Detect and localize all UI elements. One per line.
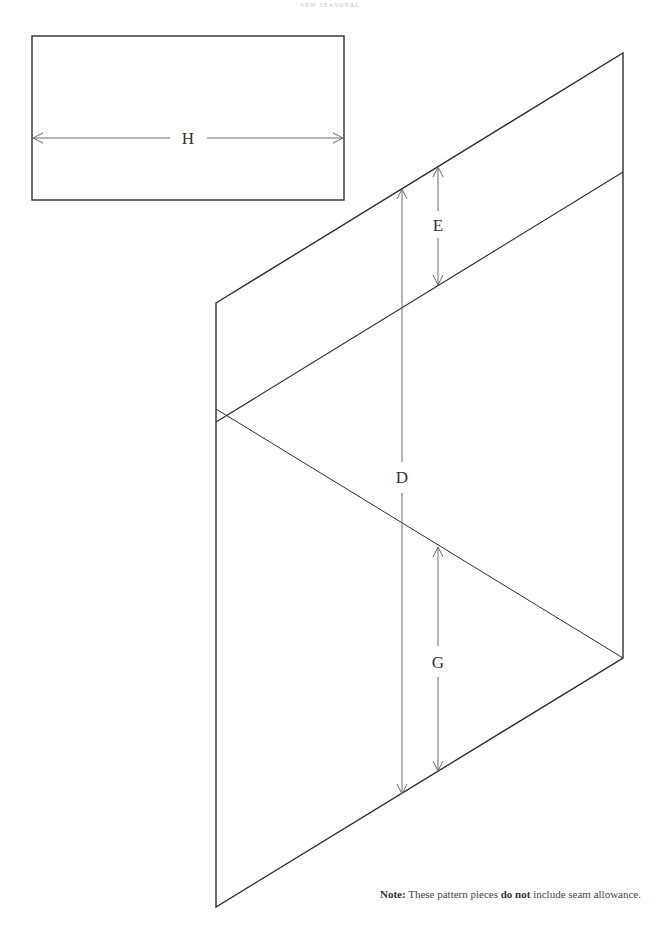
e-dimension-label: E — [433, 216, 443, 235]
diagonal-line — [216, 409, 623, 658]
rectangle-piece: H — [32, 36, 344, 200]
g-dimension-label: G — [432, 653, 444, 672]
note-prefix: Note: — [380, 888, 406, 900]
seam-allowance-note: Note: These pattern pieces do not includ… — [380, 888, 641, 900]
note-text-after: include seam allowance. — [530, 888, 641, 900]
fold-line-upper — [216, 172, 623, 422]
h-dimension-label: H — [182, 129, 194, 148]
pattern-drawing: H E D G — [0, 0, 661, 937]
d-dimension-label: D — [396, 468, 408, 487]
note-emphasis: do not — [501, 888, 531, 900]
parallelogram-piece: E D G — [216, 53, 623, 907]
note-text-before: These pattern pieces — [406, 888, 501, 900]
